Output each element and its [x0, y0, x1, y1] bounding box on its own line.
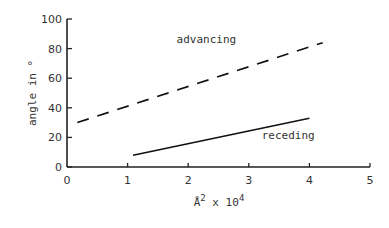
advancing-line — [77, 43, 322, 123]
x-tick-label: 0 — [64, 174, 71, 187]
y-tick-label: 40 — [48, 102, 62, 115]
y-tick-label: 0 — [55, 161, 62, 174]
y-axis-title: angle in ° — [26, 60, 39, 126]
y-tick-label: 80 — [48, 43, 62, 56]
y-tick-label: 100 — [41, 13, 62, 26]
x-axis-title: Å2 x 104 — [194, 193, 245, 209]
x-tick-label: 2 — [185, 174, 192, 187]
y-tick-label: 20 — [48, 131, 62, 144]
x-tick-label: 1 — [124, 174, 131, 187]
x-tick-label: 3 — [245, 174, 252, 187]
line-chart: 020406080100 012345 advancingreceding an… — [0, 0, 389, 228]
annotations: advancingreceding — [177, 33, 315, 142]
y-tick-label: 60 — [48, 72, 62, 85]
x-tick-label: 5 — [367, 174, 374, 187]
advancing-label: advancing — [177, 33, 237, 46]
x-tick-label: 4 — [306, 174, 313, 187]
receding-label: receding — [262, 129, 315, 142]
